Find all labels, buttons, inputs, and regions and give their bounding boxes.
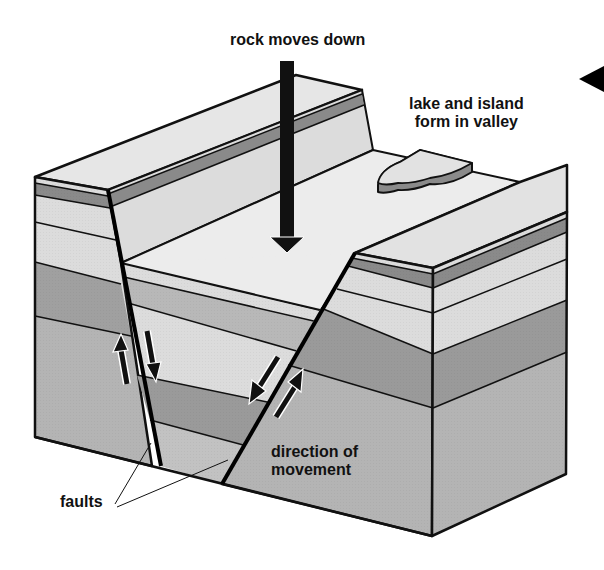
label-direction-line1: direction of	[271, 443, 358, 461]
label-lake-line1: lake and island	[409, 95, 524, 113]
label-lake-and-island: lake and island form in valley	[409, 95, 524, 131]
label-lake-line2: form in valley	[409, 113, 524, 131]
rift-valley-diagram	[0, 0, 604, 570]
pointer-triangle-icon	[579, 66, 604, 92]
label-faults: faults	[60, 493, 103, 511]
label-direction-of-movement: direction of movement	[271, 443, 358, 479]
label-direction-line2: movement	[271, 461, 358, 479]
label-rock-moves-down: rock moves down	[230, 31, 365, 49]
